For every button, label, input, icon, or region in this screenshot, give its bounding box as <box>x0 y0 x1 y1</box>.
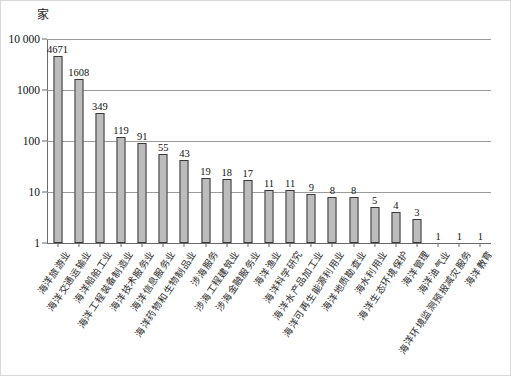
bar-slot[interactable]: 9 <box>301 39 322 243</box>
bar-value-label: 55 <box>158 142 169 153</box>
bar-value-label: 5 <box>372 195 377 206</box>
bar[interactable] <box>222 179 231 243</box>
bar-value-label: 8 <box>351 185 356 196</box>
y-tick-label: 1 <box>34 237 47 249</box>
plot-area: 10 0001000100101 46711608349119915543191… <box>47 39 491 243</box>
bars-group: 467116083491199155431918171111988543111 <box>47 39 491 243</box>
bar-slot[interactable]: 349 <box>89 39 110 243</box>
y-tick-label: 10 000 <box>8 33 47 45</box>
bar-slot[interactable]: 5 <box>364 39 385 243</box>
bar-value-label: 3 <box>414 207 419 218</box>
bar[interactable] <box>243 180 252 243</box>
bar-value-label: 1608 <box>68 67 89 78</box>
bar[interactable] <box>116 137 125 243</box>
bar-slot[interactable]: 4 <box>385 39 406 243</box>
bar[interactable] <box>74 79 83 243</box>
y-tick-label: 1000 <box>17 84 47 96</box>
bar[interactable] <box>138 143 147 243</box>
bar-slot[interactable]: 3 <box>406 39 427 243</box>
bar[interactable] <box>391 212 400 243</box>
bar-value-label: 19 <box>200 166 211 177</box>
bar-slot[interactable]: 1 <box>428 39 449 243</box>
bar-value-label: 17 <box>243 168 254 179</box>
bar-value-label: 11 <box>264 178 274 189</box>
bar[interactable] <box>201 178 210 243</box>
bar-value-label: 91 <box>137 131 148 142</box>
y-tick-label: 100 <box>23 135 47 147</box>
bar-slot[interactable]: 1 <box>449 39 470 243</box>
bar-value-label: 4671 <box>47 44 68 55</box>
bar-slot[interactable]: 19 <box>195 39 216 243</box>
bar-slot[interactable]: 91 <box>132 39 153 243</box>
bar-value-label: 1 <box>457 231 462 242</box>
bar-slot[interactable]: 11 <box>258 39 279 243</box>
chart-figure: 家 10 0001000100101 467116083491199155431… <box>0 0 511 376</box>
y-tick-label: 10 <box>29 186 48 198</box>
bar-slot[interactable]: 119 <box>110 39 131 243</box>
bar[interactable] <box>412 219 421 243</box>
bar[interactable] <box>307 194 316 243</box>
bar[interactable] <box>95 113 104 243</box>
bar-value-label: 1 <box>436 231 441 242</box>
bar-slot[interactable]: 18 <box>216 39 237 243</box>
bar-value-label: 18 <box>221 167 232 178</box>
bar[interactable] <box>264 190 273 243</box>
bar-value-label: 119 <box>113 125 128 136</box>
bar-value-label: 9 <box>309 182 314 193</box>
bar[interactable] <box>159 154 168 243</box>
bar-value-label: 8 <box>330 185 335 196</box>
bar-value-label: 43 <box>179 148 190 159</box>
bar-slot[interactable]: 8 <box>322 39 343 243</box>
y-axis-unit-label: 家 <box>37 5 49 22</box>
bar-value-label: 349 <box>92 101 108 112</box>
bar-slot[interactable]: 55 <box>153 39 174 243</box>
bar-slot[interactable]: 4671 <box>47 39 68 243</box>
bar[interactable] <box>53 56 62 243</box>
bar-slot[interactable]: 11 <box>280 39 301 243</box>
bar-slot[interactable]: 17 <box>237 39 258 243</box>
bar-slot[interactable]: 43 <box>174 39 195 243</box>
bar-value-label: 4 <box>393 200 398 211</box>
bar[interactable] <box>180 160 189 243</box>
bar-slot[interactable]: 8 <box>343 39 364 243</box>
bar[interactable] <box>328 197 337 243</box>
bar-value-label: 11 <box>285 178 295 189</box>
bar-slot[interactable]: 1608 <box>68 39 89 243</box>
bar-value-label: 1 <box>478 231 483 242</box>
category-labels-group: 海洋旅游业海洋交通运输业海洋船舶工业海洋工程装备制造业海洋技术服务业海洋信息服务… <box>47 247 491 373</box>
bar[interactable] <box>370 207 379 243</box>
bar[interactable] <box>286 190 295 243</box>
bar-slot[interactable]: 1 <box>470 39 491 243</box>
bar[interactable] <box>349 197 358 243</box>
